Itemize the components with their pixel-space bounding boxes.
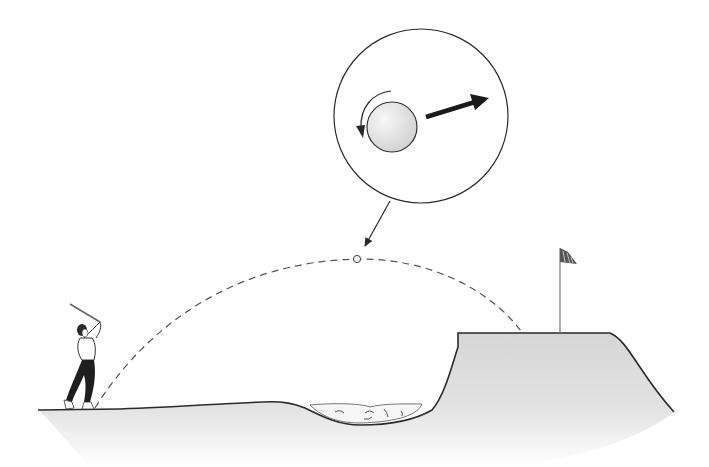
golf-backspin-diagram bbox=[0, 0, 709, 467]
flagstick bbox=[560, 248, 577, 333]
magnified-ball-inset bbox=[334, 29, 508, 203]
golf-ball bbox=[353, 255, 360, 262]
golf-club bbox=[70, 304, 100, 322]
pointer-arrow bbox=[365, 201, 390, 246]
golfer-follow-through bbox=[64, 304, 101, 409]
ground-fill bbox=[38, 333, 674, 467]
magnified-ball bbox=[367, 102, 417, 152]
flag-icon bbox=[560, 248, 577, 264]
terrain bbox=[38, 333, 674, 467]
